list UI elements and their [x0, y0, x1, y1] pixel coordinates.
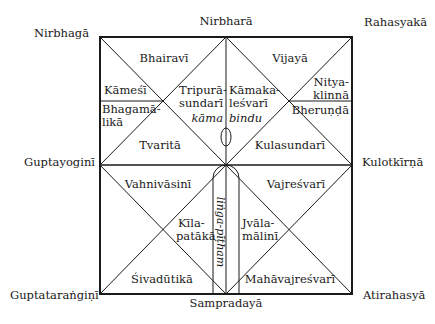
- label-tvarita: Tvaritā: [139, 139, 181, 152]
- label-nirbhaga: Nirbhagā: [34, 27, 89, 40]
- label-kamakalesvari-2: leśvarī: [229, 97, 268, 110]
- label-bhagamalika-2: likā: [102, 116, 123, 129]
- label-mahavajresvari: Mahāvajreśvarī: [245, 273, 336, 286]
- label-tripurasundari-2: sundarī: [179, 97, 223, 110]
- label-vajresvari: Vajreśvarī: [267, 178, 325, 191]
- label-linga-pitham: liṅga-pīṭham: [214, 197, 227, 268]
- label-kama: kāma: [179, 112, 223, 125]
- label-guptatarangini: Guptataraṅgiṇī: [10, 289, 99, 302]
- label-vahnivasini: Vahnivāsinī: [125, 178, 192, 191]
- label-bherunda: Bheruṇḍā: [290, 104, 349, 117]
- label-guptayogini: Guptayoginī: [24, 156, 95, 169]
- label-sampradaya: Sampradayā: [190, 297, 263, 310]
- label-rahasyaka: Rahasyakā: [364, 16, 427, 29]
- label-sivadutika: Śivadūtikā: [131, 273, 193, 286]
- label-jvalamalini-2: mālinī: [242, 230, 278, 243]
- label-bhairavi: Bhairavī: [140, 52, 189, 65]
- label-kulasundari: Kulasundarī: [255, 139, 325, 152]
- yantra-diagram: Nirbhagā Nirbharā Rahasyakā Guptayoginī …: [0, 0, 435, 324]
- label-kulotkirna: Kulotkīrṇā: [362, 156, 423, 169]
- label-kilapataka-2: patākā: [176, 230, 216, 243]
- label-kamesi: Kāmeśī: [104, 84, 147, 97]
- label-vijaya: Vijayā: [272, 52, 308, 65]
- label-nirbhara: Nirbharā: [199, 15, 252, 28]
- label-bindu: bindu: [229, 112, 262, 125]
- label-nityaklinna-2: klinnā: [300, 89, 349, 102]
- label-atirahasya: Atirahasyā: [363, 289, 425, 302]
